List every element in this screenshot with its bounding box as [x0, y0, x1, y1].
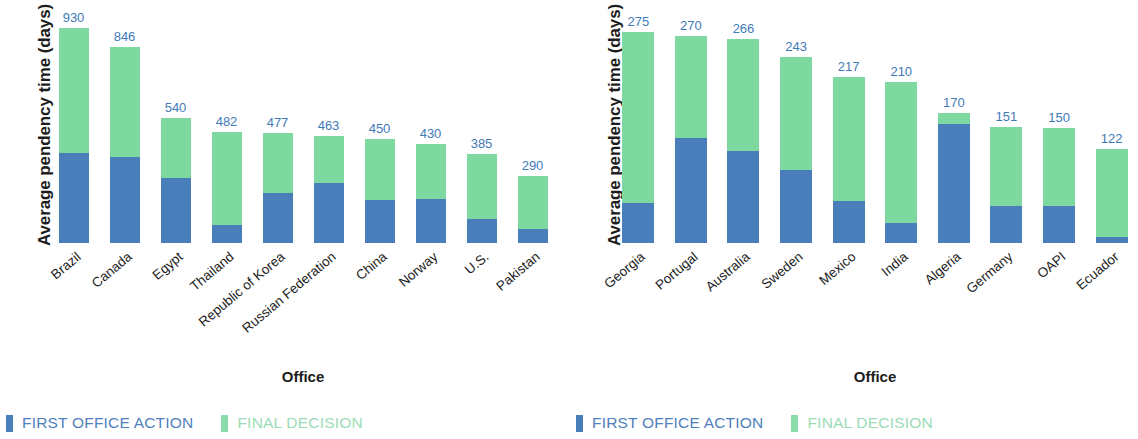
stacked-bar[interactable]: 170 [938, 113, 970, 243]
bar-segment-final-decision[interactable] [1096, 149, 1128, 236]
stacked-bar[interactable]: 482 [212, 132, 242, 243]
bar-value-label: 385 [471, 136, 493, 151]
stacked-bar[interactable]: 275 [622, 32, 654, 243]
bar-segment-final-decision[interactable] [990, 127, 1022, 206]
bar-segment-final-decision[interactable] [518, 176, 548, 229]
bar-segment-final-decision[interactable] [833, 77, 865, 201]
bar-segment-first-office-action[interactable] [59, 153, 89, 243]
stacked-bar[interactable]: 122 [1096, 149, 1128, 243]
bar-segment-first-office-action[interactable] [518, 229, 548, 243]
bar-segment-first-office-action[interactable] [314, 183, 344, 243]
bar-segment-final-decision[interactable] [212, 132, 242, 225]
bar-segment-first-office-action[interactable] [263, 193, 293, 243]
bar-slot: 170 [928, 15, 981, 243]
stacked-bar[interactable]: 385 [467, 154, 497, 243]
bar-value-label: 540 [165, 100, 187, 115]
bar-segment-first-office-action[interactable] [622, 203, 654, 243]
bar-segment-final-decision[interactable] [467, 154, 497, 219]
bar-segment-final-decision[interactable] [1043, 128, 1075, 206]
bar-slot: 266 [717, 15, 770, 243]
x-tick-slot: U.S. [456, 243, 507, 353]
bar-segment-first-office-action[interactable] [885, 223, 917, 243]
bar-segment-final-decision[interactable] [780, 57, 812, 171]
legend-label-first-office-action: FIRST OFFICE ACTION [592, 414, 763, 432]
x-tick-label: OAPI [1034, 249, 1068, 281]
bar-segment-first-office-action[interactable] [110, 157, 140, 243]
stacked-bar[interactable]: 290 [518, 176, 548, 243]
x-tick-slot: India [875, 243, 928, 353]
stacked-bar[interactable]: 270 [675, 36, 707, 243]
x-axis-ticks-right: GeorgiaPortugalAustraliaSwedenMexicoIndi… [612, 243, 1138, 353]
x-tick-slot: Mexico [822, 243, 875, 353]
stacked-bar[interactable]: 243 [780, 57, 812, 243]
bar-value-label: 290 [522, 158, 544, 173]
stacked-bar[interactable]: 150 [1043, 128, 1075, 243]
bar-segment-final-decision[interactable] [938, 113, 970, 125]
stacked-bar[interactable]: 430 [416, 144, 446, 243]
stacked-bar[interactable]: 463 [314, 136, 344, 243]
stacked-bar[interactable]: 210 [885, 82, 917, 243]
bar-segment-first-office-action[interactable] [161, 178, 191, 243]
stacked-bar[interactable]: 540 [161, 118, 191, 243]
stacked-bar[interactable]: 450 [365, 139, 395, 243]
stacked-bar[interactable]: 846 [110, 47, 140, 243]
bar-segment-first-office-action[interactable] [727, 151, 759, 243]
bar-segment-final-decision[interactable] [675, 36, 707, 138]
legend-label-final-decision: FINAL DECISION [807, 414, 932, 432]
stacked-bar[interactable]: 477 [263, 133, 293, 243]
bar-value-label: 430 [420, 126, 442, 141]
bar-value-label: 270 [680, 18, 702, 33]
bar-segment-first-office-action[interactable] [416, 199, 446, 243]
bar-segment-final-decision[interactable] [263, 133, 293, 194]
bar-slot: 243 [770, 15, 823, 243]
bar-segment-first-office-action[interactable] [938, 124, 970, 243]
legend-right: FIRST OFFICE ACTION FINAL DECISION [576, 414, 961, 432]
x-tick-label: U.S. [461, 249, 491, 277]
bar-slot: 930 [48, 15, 99, 243]
bar-segment-final-decision[interactable] [110, 47, 140, 157]
bar-segment-first-office-action[interactable] [1043, 206, 1075, 243]
stacked-bar[interactable]: 266 [727, 39, 759, 243]
stacked-bar[interactable]: 217 [833, 77, 865, 243]
legend-left: FIRST OFFICE ACTION FINAL DECISION [6, 414, 391, 432]
bar-segment-first-office-action[interactable] [833, 201, 865, 243]
bar-segment-final-decision[interactable] [314, 136, 344, 183]
bar-value-label: 151 [996, 109, 1018, 124]
bar-segment-first-office-action[interactable] [675, 138, 707, 243]
x-tick-label: Egypt [149, 249, 185, 283]
bar-value-label: 482 [216, 114, 238, 129]
bar-segment-final-decision[interactable] [885, 82, 917, 223]
bar-segment-final-decision[interactable] [161, 118, 191, 178]
bar-slot: 385 [456, 15, 507, 243]
bar-segment-final-decision[interactable] [622, 32, 654, 203]
x-tick-slot: Russian Federation [303, 243, 354, 353]
bar-slot: 217 [822, 15, 875, 243]
bar-value-label: 846 [114, 29, 136, 44]
bar-value-label: 275 [627, 14, 649, 29]
bar-segment-final-decision[interactable] [365, 139, 395, 200]
bar-slot: 150 [1033, 15, 1086, 243]
stacked-bar[interactable]: 930 [59, 28, 89, 243]
plot-area-right: 275270266243217210170151150122 [612, 15, 1138, 243]
bar-slot: 477 [252, 15, 303, 243]
bar-segment-first-office-action[interactable] [365, 200, 395, 243]
stacked-bar[interactable]: 151 [990, 127, 1022, 243]
bar-segment-first-office-action[interactable] [212, 225, 242, 243]
x-tick-label: China [352, 249, 389, 283]
x-tick-slot: OAPI [1033, 243, 1086, 353]
bar-segment-final-decision[interactable] [416, 144, 446, 199]
bar-slot: 151 [980, 15, 1033, 243]
bar-value-label: 450 [369, 121, 391, 136]
legend-swatch-first-office-action-icon [576, 415, 583, 432]
x-tick-slot: Sweden [770, 243, 823, 353]
x-tick-slot: Germany [980, 243, 1033, 353]
bar-segment-final-decision[interactable] [727, 39, 759, 151]
bar-slot: 430 [405, 15, 456, 243]
bar-segment-final-decision[interactable] [59, 28, 89, 153]
bar-group-right: 275270266243217210170151150122 [612, 15, 1138, 243]
bar-segment-first-office-action[interactable] [990, 206, 1022, 243]
bar-segment-first-office-action[interactable] [467, 219, 497, 243]
x-tick-label: Algeria [922, 249, 964, 288]
x-tick-slot: Algeria [928, 243, 981, 353]
bar-segment-first-office-action[interactable] [780, 170, 812, 243]
